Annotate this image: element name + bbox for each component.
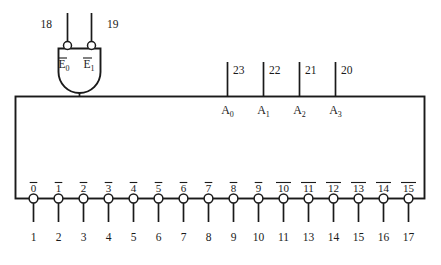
pin-number-output-4: 5 xyxy=(131,231,137,243)
output-bubble-4 xyxy=(129,194,138,203)
output-label-10: 10 xyxy=(278,182,290,194)
pin-number-output-10: 11 xyxy=(278,231,289,243)
diagram-canvas: 18 19 E0 E1 23 22 21 20 A0 A1 xyxy=(0,0,441,265)
output-label-4: 4 xyxy=(131,182,137,194)
pin-number-output-13: 15 xyxy=(353,231,365,243)
enable-label-e0-subscript: 0 xyxy=(66,64,70,73)
output-label-3: 3 xyxy=(106,182,112,194)
pin-number-e0: 18 xyxy=(41,18,53,30)
output-bubble-0 xyxy=(29,194,38,203)
pin-number-output-2: 3 xyxy=(81,231,87,243)
output-label-13: 13 xyxy=(353,182,365,194)
output-label-8: 8 xyxy=(231,182,237,194)
pin-number-output-8: 9 xyxy=(231,231,237,243)
pin-number-output-12: 14 xyxy=(328,231,340,243)
pin-number-output-14: 16 xyxy=(378,231,390,243)
enable-label-e0-text: E xyxy=(58,58,65,70)
output-bubble-7 xyxy=(204,194,213,203)
svg-text:E0: E0 xyxy=(58,58,69,73)
output-bubble-8 xyxy=(229,194,238,203)
enable-label-e0: E0 xyxy=(58,58,70,73)
address-label-a3-text: A xyxy=(329,103,338,117)
address-label-a2: A2 xyxy=(293,103,306,119)
pin-number-output-1: 2 xyxy=(56,231,62,243)
pin-number-output-7: 8 xyxy=(206,231,212,243)
pin-number-output-5: 6 xyxy=(156,231,162,243)
pin-number-output-0: 1 xyxy=(31,231,37,243)
output-label-12: 12 xyxy=(328,182,339,194)
enable-bubble-e0-icon xyxy=(64,42,72,50)
output-label-7: 7 xyxy=(206,182,212,194)
output-bubble-5 xyxy=(154,194,163,203)
output-label-11: 11 xyxy=(303,182,314,194)
output-label-15: 15 xyxy=(403,182,415,194)
output-bubble-10 xyxy=(279,194,288,203)
enable-label-e1-subscript: 1 xyxy=(91,64,95,73)
pin-number-e1: 19 xyxy=(107,18,119,30)
pin-number-a1: 22 xyxy=(269,64,281,76)
address-label-a1-text: A xyxy=(257,103,266,117)
output-bubble-2 xyxy=(79,194,88,203)
output-bubble-9 xyxy=(254,194,263,203)
output-bubble-3 xyxy=(104,194,113,203)
pin-number-output-11: 13 xyxy=(303,231,315,243)
pin-number-a0: 23 xyxy=(233,64,245,76)
address-label-a2-subscript: 2 xyxy=(302,110,306,119)
pin-number-output-15: 17 xyxy=(403,231,415,243)
address-label-a3: A3 xyxy=(329,103,342,119)
pin-number-output-9: 10 xyxy=(253,231,265,243)
pin-number-a2: 21 xyxy=(305,64,317,76)
output-bubble-13 xyxy=(354,194,363,203)
output-label-5: 5 xyxy=(156,182,162,194)
output-label-14: 14 xyxy=(378,182,390,194)
address-label-a2-text: A xyxy=(293,103,302,117)
output-label-6: 6 xyxy=(181,182,187,194)
address-label-a0-subscript: 0 xyxy=(230,110,234,119)
decoder-diagram: 18 19 E0 E1 23 22 21 20 A0 A1 xyxy=(0,0,441,265)
output-label-1: 1 xyxy=(56,182,62,194)
svg-text:E1: E1 xyxy=(83,58,94,73)
enable-label-e1-text: E xyxy=(83,58,90,70)
pin-number-a3: 20 xyxy=(341,64,353,76)
output-bubble-12 xyxy=(329,194,338,203)
output-bubble-6 xyxy=(179,194,188,203)
address-label-a1: A1 xyxy=(257,103,270,119)
output-label-0: 0 xyxy=(31,182,37,194)
pin-number-output-6: 7 xyxy=(181,231,187,243)
address-label-a3-subscript: 3 xyxy=(338,110,342,119)
output-bubble-1 xyxy=(54,194,63,203)
address-label-a0-text: A xyxy=(221,103,230,117)
output-bubble-14 xyxy=(379,194,388,203)
pin-number-output-3: 4 xyxy=(106,231,112,243)
outputs-group: 0112233445566778899101011111312141315141… xyxy=(29,182,416,243)
address-label-a0: A0 xyxy=(221,103,234,119)
enable-label-e1: E1 xyxy=(83,58,95,73)
output-label-9: 9 xyxy=(256,182,262,194)
enable-bubble-e1-icon xyxy=(88,42,96,50)
address-label-a1-subscript: 1 xyxy=(266,110,270,119)
output-label-2: 2 xyxy=(81,182,87,194)
output-bubble-15 xyxy=(404,194,413,203)
output-bubble-11 xyxy=(304,194,313,203)
